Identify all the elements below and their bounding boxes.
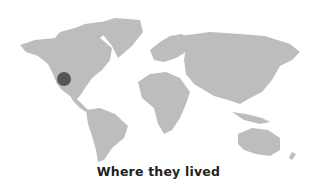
location-marker xyxy=(57,72,71,86)
australia xyxy=(238,128,280,156)
map-caption: Where they lived xyxy=(0,164,317,179)
asia xyxy=(180,32,300,104)
new-zealand xyxy=(289,152,296,160)
central-america xyxy=(70,96,88,112)
africa xyxy=(138,72,190,134)
continents xyxy=(20,18,300,162)
indonesia xyxy=(232,112,270,124)
north-america xyxy=(20,22,112,100)
south-america xyxy=(86,108,128,162)
world-map-svg xyxy=(0,0,317,165)
